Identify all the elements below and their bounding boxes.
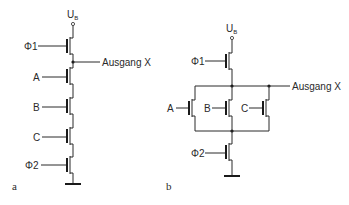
gate-label-c-a: C bbox=[33, 132, 40, 143]
transistor-phi1-b bbox=[205, 52, 232, 86]
supply-label-a: UB bbox=[67, 9, 78, 21]
transistor-phi2-a bbox=[41, 156, 73, 184]
transistor-phi2-b bbox=[205, 131, 232, 176]
panel-b: UB Φ1 Ausgang X A bbox=[166, 23, 341, 192]
gate-label-a-a: A bbox=[33, 72, 40, 83]
supply-terminal-a bbox=[71, 22, 74, 25]
gate-label-b-a: B bbox=[33, 102, 40, 113]
transistor-b-b bbox=[212, 86, 232, 131]
transistor-c-a bbox=[42, 127, 73, 157]
gate-label-phi2-a: Φ2 bbox=[25, 160, 39, 171]
gate-label-b-b: B bbox=[204, 103, 211, 114]
supply-label-b: UB bbox=[226, 23, 237, 35]
output-label-b: Ausgang X bbox=[292, 81, 341, 92]
transistor-b-a bbox=[42, 97, 73, 128]
gate-label-c-b: C bbox=[241, 103, 248, 114]
gate-label-phi1-b: Φ1 bbox=[191, 56, 205, 67]
gate-label-phi2-b: Φ2 bbox=[191, 148, 205, 159]
panel-a: UB Φ1 Ausgang X A bbox=[12, 9, 151, 192]
panel-label-b: b bbox=[166, 180, 172, 192]
gate-label-a-b: A bbox=[167, 103, 174, 114]
transistor-a-b bbox=[176, 86, 195, 131]
supply-terminal-b bbox=[230, 36, 233, 39]
output-label-a: Ausgang X bbox=[102, 57, 151, 68]
transistor-phi1-a bbox=[38, 37, 73, 66]
transistor-a-a bbox=[42, 67, 73, 98]
circuit-diagram: UB Φ1 Ausgang X A bbox=[0, 0, 349, 205]
transistor-c-b bbox=[249, 86, 269, 131]
gate-label-phi1-a: Φ1 bbox=[24, 41, 38, 52]
panel-label-a: a bbox=[12, 180, 17, 192]
